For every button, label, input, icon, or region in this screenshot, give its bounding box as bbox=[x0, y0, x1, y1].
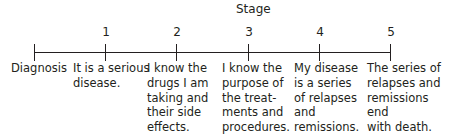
stage-text-4: My disease is a series of relapses and r… bbox=[294, 61, 359, 135]
tick-stage-5 bbox=[390, 44, 391, 61]
timeline-axis bbox=[34, 52, 391, 53]
tick-diagnosis bbox=[34, 44, 35, 61]
axis-title: Stage bbox=[236, 2, 271, 16]
diagnosis-label: Diagnosis bbox=[11, 61, 67, 76]
tick-stage-1 bbox=[105, 44, 106, 61]
stage-number-2: 2 bbox=[173, 25, 181, 39]
stage-number-4: 4 bbox=[316, 25, 324, 39]
stage-text-3: I know the purpose of the treat- ments a… bbox=[222, 61, 290, 135]
stage-number-1: 1 bbox=[102, 25, 110, 39]
tick-stage-3 bbox=[248, 44, 249, 61]
stage-text-1: It is a serious disease. bbox=[73, 61, 149, 91]
tick-stage-2 bbox=[176, 44, 177, 61]
stage-number-3: 3 bbox=[245, 25, 253, 39]
tick-stage-4 bbox=[319, 44, 320, 61]
stage-number-5: 5 bbox=[387, 25, 395, 39]
stage-text-5: The series of relapses and remissions en… bbox=[367, 61, 452, 135]
stage-text-2: I know the drugs I am taking and their s… bbox=[147, 61, 209, 135]
